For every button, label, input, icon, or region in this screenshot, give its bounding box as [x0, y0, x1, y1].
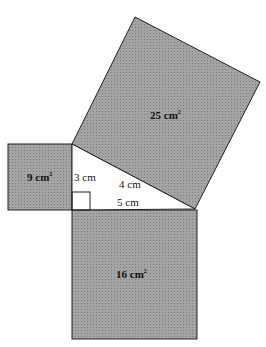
top-square-area-label: 25 cm2: [150, 109, 181, 121]
hypotenuse-side-label: 4 cm: [119, 178, 141, 190]
left-square-area-label: 9 cm2: [27, 171, 52, 183]
vertical-side-label: 3 cm: [74, 171, 96, 183]
bottom-square-area-label: 16 cm2: [116, 268, 147, 280]
bottom-side-label: 5 cm: [117, 196, 139, 208]
